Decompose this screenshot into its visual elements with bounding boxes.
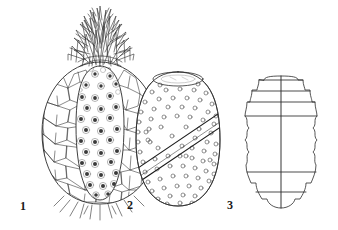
figure-2-dotted-ovoid — [132, 72, 226, 206]
figure-3-scalloped-barrel — [245, 76, 317, 208]
figure-1-number-label: 1 — [20, 200, 26, 212]
ovoid-apex-opening — [153, 72, 203, 86]
illustration-plate: 1 2 3 — [0, 0, 338, 230]
pineapple-crown-icon — [68, 6, 134, 66]
figure-canvas — [0, 0, 338, 230]
figure-3-number-label: 3 — [227, 199, 233, 211]
ovoid-body-outline — [136, 72, 220, 206]
figure-2-number-label: 2 — [127, 199, 133, 211]
